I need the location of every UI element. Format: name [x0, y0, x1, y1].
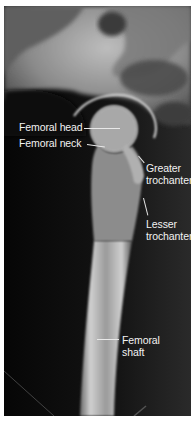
label-greater-trochanter: Greater trochanter — [146, 162, 191, 186]
label-text-line-2: shaft — [122, 346, 160, 358]
leader-line-femoral-shaft — [97, 339, 119, 340]
label-text-line-2: trochanter — [146, 174, 191, 186]
label-femoral-neck: Femoral neck — [19, 137, 81, 149]
label-femoral-head: Femoral head — [19, 121, 83, 133]
label-text-line-1: Lesser — [146, 218, 191, 230]
pelvic-inlet-shadow — [120, 60, 188, 96]
label-text-line-1: Femoral — [122, 334, 160, 346]
leader-line-femoral-head — [84, 128, 120, 129]
label-text-line-1: Greater — [146, 162, 191, 174]
label-text: Femoral neck — [19, 137, 81, 149]
hip-xray-image: Femoral head Femoral neck Greater trocha… — [4, 6, 191, 416]
label-lesser-trochanter: Lesser trochanter — [146, 218, 191, 242]
label-femoral-shaft: Femoral shaft — [122, 334, 160, 358]
radiograph-graphic — [4, 6, 191, 416]
label-text-line-2: trochanter — [146, 230, 191, 242]
sacral-foramen-shadow — [98, 12, 126, 36]
label-text: Femoral head — [19, 121, 83, 133]
